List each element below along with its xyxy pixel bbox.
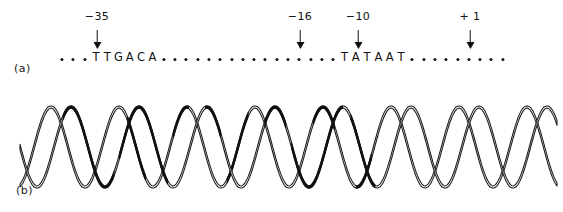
- consensus-base-T: T: [341, 50, 348, 64]
- sequence-dot: [207, 58, 210, 61]
- position-arrow-minus-35: [93, 30, 102, 48]
- figure-container: −35−16−10+ 1 TTGACATATAAT (a) (b): [0, 0, 563, 212]
- panel-a-sequence-map: −35−16−10+ 1 TTGACATATAAT (a): [0, 0, 563, 90]
- arrow-head-icon: [93, 42, 101, 49]
- dna-sequence-strip: TTGACATATAAT: [0, 52, 563, 68]
- consensus-base-A: A: [352, 50, 360, 64]
- sequence-dot: [241, 58, 244, 61]
- position-label-plus-1: + 1: [460, 10, 481, 23]
- arrow-head-icon: [296, 42, 304, 49]
- sequence-dot: [456, 58, 459, 61]
- dna-strand-back: [20, 106, 557, 188]
- dna-double-helix-diagram: [0, 90, 563, 212]
- helix-dark-segment: [173, 106, 188, 138]
- consensus-base-T: T: [397, 50, 404, 64]
- consensus-base-A: A: [374, 50, 382, 64]
- position-arrow-minus-10: [354, 30, 363, 48]
- helix-dark-segment: [63, 106, 114, 188]
- sequence-dot: [479, 58, 482, 61]
- helix-dark-segment: [206, 106, 221, 137]
- consensus-base-G: G: [114, 50, 123, 64]
- consensus-base-T: T: [364, 50, 371, 64]
- consensus-base-A: A: [126, 50, 134, 64]
- sequence-dot: [253, 58, 256, 61]
- sequence-dot: [501, 58, 504, 61]
- sequence-dot: [298, 58, 301, 61]
- sequence-dot: [196, 58, 199, 61]
- sequence-dot: [490, 58, 493, 61]
- position-label-minus-35: −35: [85, 10, 109, 23]
- panel-label-a: (a): [14, 62, 31, 75]
- position-arrow-minus-16: [296, 30, 305, 48]
- sequence-dot: [422, 58, 425, 61]
- position-label-minus-16: −16: [288, 10, 312, 23]
- sequence-dot: [286, 58, 289, 61]
- sequence-dot: [411, 58, 414, 61]
- sequence-dot: [467, 58, 470, 61]
- helix-ribbons: [20, 106, 557, 188]
- helix-dark-segment: [351, 115, 375, 188]
- arrow-head-icon: [466, 42, 474, 49]
- helix-dark-segment: [265, 106, 286, 128]
- sequence-dot: [185, 58, 188, 61]
- position-label-minus-10: −10: [346, 10, 370, 23]
- sequence-dot: [275, 58, 278, 61]
- sequence-dot: [72, 58, 75, 61]
- helix-dark-segment: [128, 117, 146, 180]
- sequence-dot: [60, 58, 63, 61]
- arrow-head-icon: [354, 42, 362, 49]
- sequence-dot: [433, 58, 436, 61]
- consensus-base-T: T: [104, 50, 111, 64]
- helix-dark-segment: [292, 106, 343, 188]
- consensus-base-A: A: [386, 50, 394, 64]
- consensus-base-C: C: [137, 50, 145, 64]
- sequence-dot: [309, 58, 312, 61]
- sequence-dot: [83, 58, 86, 61]
- sequence-dot: [332, 58, 335, 61]
- consensus-base-A: A: [148, 50, 156, 64]
- panel-label-b: (b): [16, 184, 33, 197]
- sequence-dot: [264, 58, 267, 61]
- panel-b-helix: [0, 90, 563, 212]
- consensus-base-T: T: [92, 50, 99, 64]
- sequence-dot: [219, 58, 222, 61]
- sequence-dot: [320, 58, 323, 61]
- sequence-dot: [162, 58, 165, 61]
- sequence-dot: [445, 58, 448, 61]
- position-arrow-plus-1: [466, 30, 475, 48]
- sequence-dot: [230, 58, 233, 61]
- sequence-dot: [173, 58, 176, 61]
